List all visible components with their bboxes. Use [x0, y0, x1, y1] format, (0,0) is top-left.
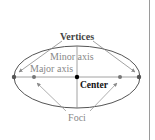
foci-label: Foci [68, 112, 86, 123]
vertex-arrow-right [93, 41, 135, 72]
major-axis-label: Major axis [30, 63, 73, 74]
focus-arrow-left [37, 83, 66, 111]
center-label: Center [80, 80, 109, 90]
center-dot [75, 75, 79, 79]
focus-dot-right [118, 75, 122, 79]
minor-axis-label: Minor axis [50, 51, 94, 62]
vertices-label: Vertices [60, 31, 94, 42]
ellipse-diagram: Vertices Minor axis Major axis Center Fo… [0, 0, 155, 140]
vertex-dot-right [137, 75, 141, 79]
focus-dot-left [32, 75, 36, 79]
vertex-dot-left [12, 75, 16, 79]
